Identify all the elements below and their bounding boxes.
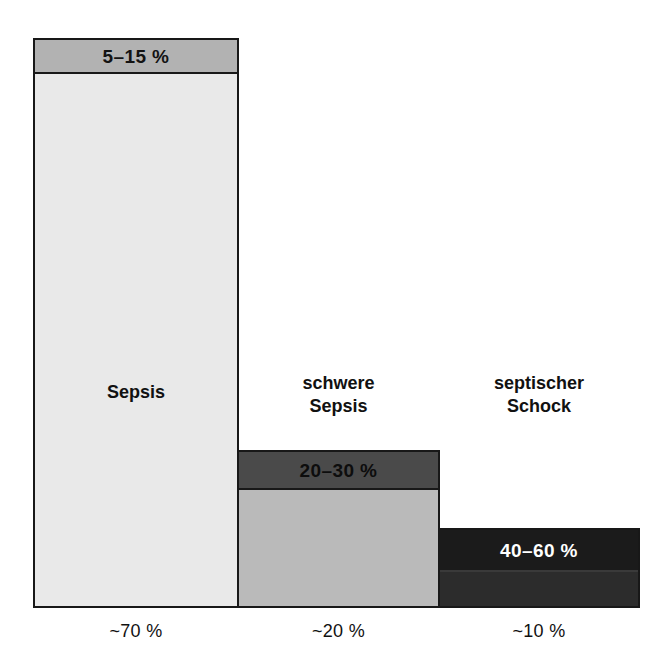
share-label-septischer-schock: ~10 %	[438, 621, 640, 642]
bar-septischer-schock-body	[440, 572, 638, 606]
bar-schwere-sepsis-mortality-band: 20–30 %	[239, 452, 438, 490]
bar-schwere-sepsis-mortality-label: 20–30 %	[300, 461, 378, 480]
category-label-schwere-sepsis: schwere Sepsis	[237, 372, 440, 418]
share-label-schwere-sepsis: ~20 %	[237, 621, 440, 642]
category-label-sepsis: Sepsis	[33, 381, 239, 404]
bar-schwere-sepsis: 20–30 %	[237, 450, 440, 608]
bar-sepsis: 5–15 %	[33, 38, 239, 608]
bar-sepsis-mortality-label: 5–15 %	[103, 47, 170, 66]
sepsis-severity-bar-chart: 5–15 % 20–30 % 40–60 % Sepsis schwere Se…	[0, 0, 666, 664]
bar-septischer-schock-mortality-band: 40–60 %	[440, 530, 638, 572]
bar-sepsis-mortality-band: 5–15 %	[35, 40, 237, 74]
share-label-sepsis: ~70 %	[33, 621, 239, 642]
bar-septischer-schock: 40–60 %	[438, 528, 640, 608]
bar-schwere-sepsis-body	[239, 490, 438, 606]
bar-septischer-schock-mortality-label: 40–60 %	[500, 541, 578, 560]
bar-sepsis-body	[35, 74, 237, 606]
category-label-septischer-schock: septischer Schock	[438, 372, 640, 418]
